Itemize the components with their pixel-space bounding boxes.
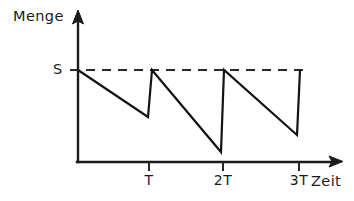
x-axis-label: Zeit bbox=[311, 174, 341, 189]
sawtooth-inventory-figure: Menge S T 2T 3T Zeit bbox=[0, 0, 354, 201]
x-axis-ticks bbox=[149, 162, 299, 171]
inventory-sawtooth-series bbox=[78, 70, 300, 152]
y-axis bbox=[73, 10, 84, 162]
x-tick-label-t1: T bbox=[145, 173, 154, 187]
stock-level-label: S bbox=[53, 62, 63, 77]
y-axis-label: Menge bbox=[13, 9, 64, 24]
x-tick-label-t3: 3T bbox=[290, 173, 308, 187]
x-axis bbox=[77, 156, 343, 167]
chart-canvas bbox=[0, 0, 354, 201]
x-tick-label-t2: 2T bbox=[214, 173, 232, 187]
